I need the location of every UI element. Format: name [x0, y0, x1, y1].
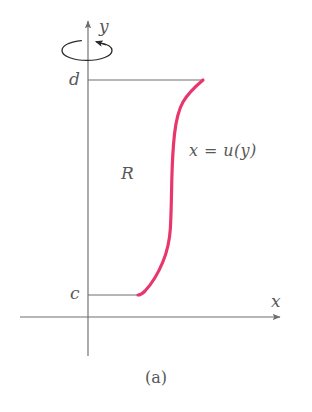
function-curve	[138, 80, 203, 295]
figure-caption: (a)	[0, 368, 312, 387]
x-axis-label: x	[271, 293, 281, 310]
lower-bound-label: c	[70, 285, 80, 302]
curve-equation-label: x = u(y)	[189, 143, 257, 159]
upper-bound-label: d	[69, 71, 80, 88]
figure-container: y x d c R x = u(y) (a)	[0, 0, 312, 412]
region-label: R	[121, 165, 134, 182]
rotation-arrow-icon	[62, 41, 112, 61]
y-axis-label: y	[99, 18, 109, 35]
figure-canvas	[0, 0, 312, 412]
